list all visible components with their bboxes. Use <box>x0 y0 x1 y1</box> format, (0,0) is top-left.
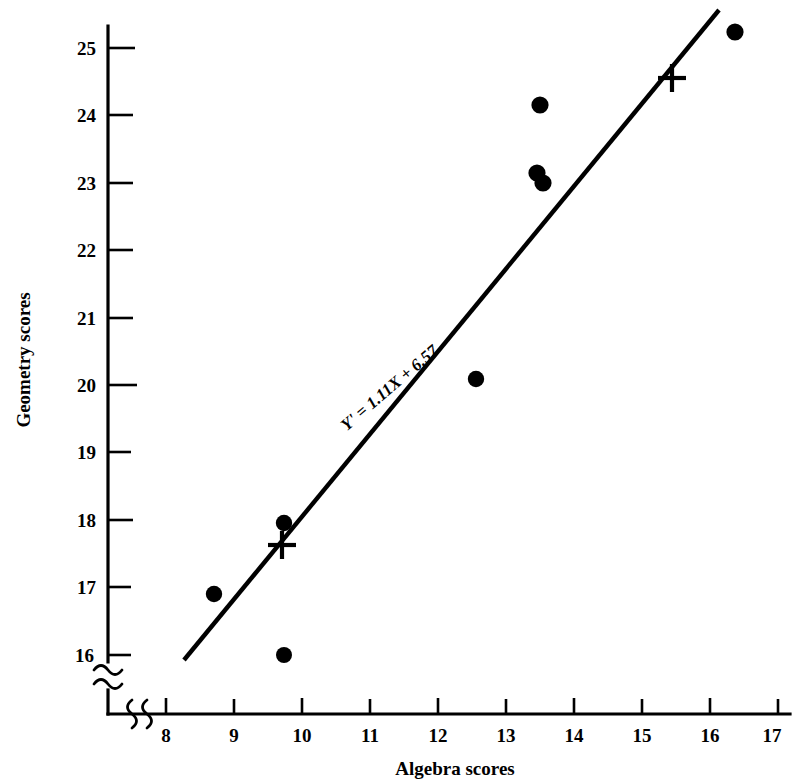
scatter-plot-figure: 25 24 23 22 21 20 19 18 17 16 8 <box>0 0 800 782</box>
x-tick-label-9: 9 <box>229 725 239 746</box>
y-axis-break-symbol <box>94 666 122 689</box>
data-point <box>726 23 743 40</box>
x-ticks-group: 8 9 10 11 12 13 14 15 16 17 <box>161 698 782 746</box>
x-tick-label-17: 17 <box>763 725 783 746</box>
y-tick-label-23: 23 <box>77 173 96 194</box>
y-tick-label-18: 18 <box>77 510 96 531</box>
data-point <box>531 96 548 113</box>
y-tick-label-21: 21 <box>77 308 96 329</box>
data-point <box>468 371 484 387</box>
x-tick-label-13: 13 <box>497 725 516 746</box>
data-point <box>534 174 551 191</box>
data-points-group <box>206 23 744 663</box>
x-axis-title: Algebra scores <box>395 758 514 779</box>
y-tick-label-24: 24 <box>77 105 97 126</box>
axis-group <box>108 26 790 714</box>
data-point <box>276 647 292 663</box>
x-tick-label-10: 10 <box>293 725 312 746</box>
y-axis-title: Geometry scores <box>13 292 34 427</box>
data-point <box>276 515 292 531</box>
x-tick-label-16: 16 <box>701 725 720 746</box>
y-tick-label-16: 16 <box>75 645 94 666</box>
y-tick-label-17: 17 <box>77 577 97 598</box>
x-tick-label-15: 15 <box>633 725 652 746</box>
y-ticks-group: 25 24 23 22 21 20 19 18 17 16 <box>75 38 137 666</box>
data-point <box>206 586 222 602</box>
x-tick-label-8: 8 <box>161 725 171 746</box>
y-tick-label-22: 22 <box>77 240 96 261</box>
x-tick-label-14: 14 <box>565 725 585 746</box>
chart-canvas: 25 24 23 22 21 20 19 18 17 16 8 <box>0 0 800 782</box>
y-tick-label-19: 19 <box>77 442 96 463</box>
x-tick-label-12: 12 <box>429 725 448 746</box>
x-tick-label-11: 11 <box>361 725 379 746</box>
regression-equation-label: Y' = 1.11X + 6.57 <box>337 340 443 434</box>
y-tick-label-25: 25 <box>77 38 96 59</box>
regression-line <box>184 10 719 660</box>
y-tick-label-20: 20 <box>77 375 96 396</box>
plus-marker <box>658 64 686 92</box>
